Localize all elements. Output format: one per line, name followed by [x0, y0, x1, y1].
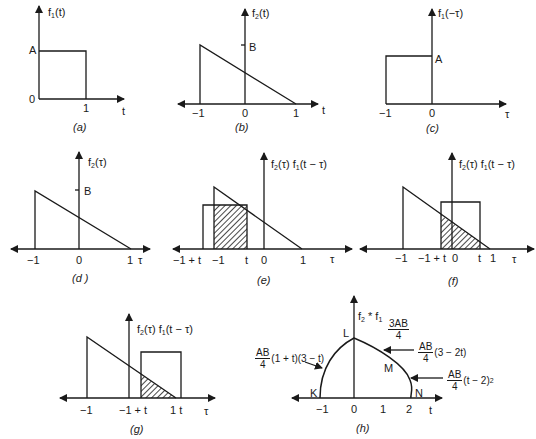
- panel-f-caption: (f): [448, 276, 458, 287]
- panel-e-xlabel: τ: [330, 254, 334, 265]
- panel-h-tick-2: 2: [406, 404, 412, 415]
- panel-b-tick-0: 0: [242, 108, 248, 119]
- panel-b-tick-1: 1: [293, 108, 299, 119]
- panel-h-tick-1: 1: [380, 404, 386, 415]
- panel-a-tick-A: A: [29, 45, 36, 56]
- panel-a-xlabel: t: [122, 106, 125, 117]
- panel-f-tick-m1: −1: [395, 253, 408, 264]
- panel-h-tick-0: 0: [351, 404, 357, 415]
- panel-b-tick-B: B: [249, 42, 256, 53]
- annotation-1-plus-t: AB4(1 + t)(3 − t): [255, 347, 324, 370]
- panel-h-caption: (h): [356, 423, 369, 434]
- panel-b-xlabel: t: [322, 105, 325, 116]
- panel-f-tick-1: 1: [490, 253, 496, 264]
- panel-g-ylabel: f2(τ) f1(t − τ): [137, 324, 193, 336]
- panel-c-xlabel: τ: [505, 109, 509, 120]
- panel-b-tick-m1: −1: [192, 108, 205, 119]
- panel-a-tick-0: 0: [29, 94, 35, 105]
- peak-value-label: 3AB4: [388, 318, 410, 341]
- panel-e-tick-m1t: −1 + t: [173, 255, 201, 266]
- panel-f-ylabel: f2(τ) f1(t − τ): [459, 159, 515, 171]
- panel-h-xlabel: t: [429, 405, 432, 416]
- panel-g-xlabel: τ: [204, 406, 208, 417]
- panel-g-caption: (g): [130, 424, 143, 435]
- panel-c-caption: (c): [426, 123, 439, 134]
- panel-a-graph: [39, 6, 124, 99]
- overlap-shading: [214, 205, 247, 249]
- panel-f-xlabel: τ: [512, 254, 516, 265]
- panel-d-xlabel: τ: [138, 255, 142, 266]
- panel-d-tick-0: 0: [76, 255, 82, 266]
- panel-e-caption: (e): [257, 275, 270, 286]
- panel-f-tick-0: 0: [452, 253, 458, 264]
- panel-g-tick-1t: 1 t: [170, 405, 182, 416]
- panel-b-ylabel: f2(t): [252, 8, 269, 20]
- panel-g-tick-m1: −1: [80, 405, 93, 416]
- panel-f-tick-m1t: −1 + t: [418, 253, 446, 264]
- panel-a-ylabel: f1(t): [48, 7, 65, 19]
- panel-a-tick-1: 1: [83, 103, 89, 114]
- rectangle-pulse: [386, 56, 432, 104]
- panel-c-tick-0: 0: [429, 108, 435, 119]
- panel-f-tick-t: t: [478, 253, 481, 264]
- point-K: K: [310, 388, 317, 399]
- panel-d-graph: [11, 152, 150, 249]
- panel-e-tick-0: 0: [261, 255, 267, 266]
- panel-g-tick-m1t: −1 + t: [119, 405, 147, 416]
- panel-d-caption: (d ): [72, 273, 89, 284]
- rectangle-pulse: [39, 51, 86, 99]
- panel-h-ylabel: f2 * f1: [358, 311, 382, 323]
- panel-e-ylabel: f2(τ) f1(t − τ): [271, 159, 327, 171]
- panel-c-tick-A: A: [435, 54, 442, 65]
- panel-c-graph: [386, 9, 506, 104]
- panel-c-ylabel: f1(−τ): [438, 8, 463, 20]
- panel-a-caption: (a): [73, 122, 86, 133]
- panel-b-caption: (b): [235, 122, 248, 133]
- point-L: L: [343, 328, 349, 339]
- panel-e-tick-t: t: [245, 255, 248, 266]
- point-M: M: [384, 363, 393, 374]
- panel-h-tick-m1: −1: [316, 404, 329, 415]
- panel-d-ylabel: f2(τ): [88, 157, 107, 169]
- panel-d-tick-B: B: [84, 186, 91, 197]
- overlap-shading: [441, 215, 480, 249]
- panel-d-tick-m1: −1: [27, 255, 40, 266]
- panel-e-tick-1: 1: [300, 255, 306, 266]
- panel-e-tick-m1: −1: [212, 255, 225, 266]
- annotation-t-minus-2-squared: AB4(t − 2)2: [447, 369, 494, 392]
- panel-c-tick-m1: −1: [379, 108, 392, 119]
- panel-d-tick-1: 1: [127, 255, 133, 266]
- panel-b-graph: [178, 9, 318, 104]
- annotation-3-minus-2t: AB4(3 − 2t): [418, 341, 466, 364]
- point-N: N: [415, 388, 423, 399]
- triangle-pulse: [200, 45, 296, 104]
- convolution-curve: [320, 338, 412, 398]
